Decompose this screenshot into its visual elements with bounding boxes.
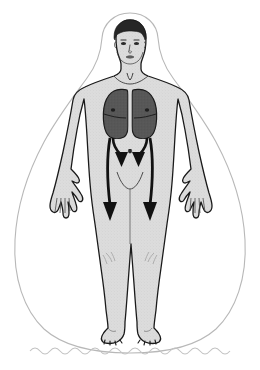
human-body-diagram: [0, 0, 260, 370]
hilum-left: [145, 108, 149, 111]
illustration-canvas: [0, 0, 260, 370]
mouth: [126, 56, 134, 58]
hilum-right: [111, 108, 115, 111]
body-group: [50, 20, 212, 345]
eye-right: [134, 42, 139, 45]
navel: [128, 149, 131, 153]
lungs-group: [103, 88, 156, 139]
eye-left: [121, 42, 126, 45]
body-silhouette: [50, 20, 212, 344]
